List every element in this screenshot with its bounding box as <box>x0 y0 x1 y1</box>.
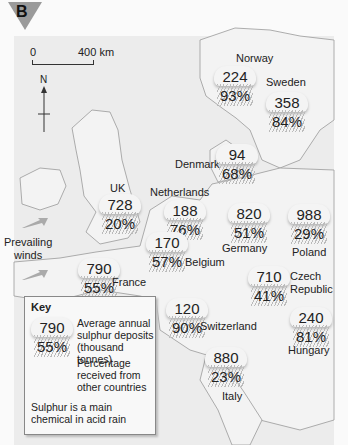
cloud-germany: 820 51% <box>228 203 270 247</box>
winds-line2: winds <box>4 249 52 262</box>
country-label-denmark: Denmark <box>175 158 220 170</box>
key-percent-line1: Percentage <box>77 357 146 369</box>
deposits-denmark: 94 <box>216 146 258 163</box>
deposits-norway: 224 <box>214 68 256 85</box>
cloud-czech-republic: 710 41% <box>248 266 290 310</box>
acid-rain-map: B 0 400 km N Norway 224 93% Sweden 358 8… <box>0 0 348 445</box>
key-title: Key <box>31 301 51 313</box>
deposits-poland: 988 <box>288 206 330 223</box>
deposits-netherlands: 188 <box>164 202 206 219</box>
scale-end: 400 km <box>78 46 114 58</box>
country-label-hungary: Hungary <box>288 344 330 356</box>
percent-denmark: 68% <box>216 165 258 182</box>
country-label-republic: Republic <box>290 283 333 295</box>
key-deposits-line1: Average annual <box>77 317 155 329</box>
cloud-poland: 988 29% <box>288 204 330 248</box>
key-note-line2: chemical in acid rain <box>31 413 126 425</box>
cloud-sweden: 358 84% <box>266 92 308 136</box>
deposits-belgium: 170 <box>146 234 188 251</box>
country-label-czech: Czech <box>290 270 321 282</box>
prevailing-winds-label: Prevailing winds <box>4 236 52 262</box>
deposits-switzerland: 120 <box>166 300 208 317</box>
country-label-netherlands: Netherlands <box>150 186 209 198</box>
cloud-italy: 880 23% <box>205 347 247 391</box>
wind-arrow-icon <box>22 270 48 280</box>
figure-letter: B <box>16 3 28 21</box>
cloud-denmark: 94 68% <box>216 144 258 188</box>
percent-italy: 23% <box>205 368 247 385</box>
key-percent-line2: received from <box>77 369 146 381</box>
winds-line1: Prevailing <box>4 236 52 249</box>
scale-line <box>32 60 94 65</box>
percent-poland: 29% <box>288 225 330 242</box>
deposits-sweden: 358 <box>266 94 308 111</box>
key-note-line1: Sulphur is a main <box>31 401 126 413</box>
wind-arrow-icon <box>22 218 48 228</box>
country-label-germany: Germany <box>222 242 267 254</box>
deposits-uk: 728 <box>99 196 141 213</box>
percent-hungary: 81% <box>290 328 332 345</box>
north-arrow: N <box>38 74 52 134</box>
deposits-italy: 880 <box>205 349 247 366</box>
deposits-czech-republic: 710 <box>248 268 290 285</box>
percent-belgium: 57% <box>146 253 188 270</box>
percent-germany: 51% <box>228 224 270 241</box>
cloud-norway: 224 93% <box>214 66 256 110</box>
key-deposits-line2: sulphur deposits <box>77 329 155 341</box>
cloud-uk: 728 20% <box>99 194 141 238</box>
deposits-france: 790 <box>78 260 120 277</box>
country-label-sweden: Sweden <box>266 76 306 88</box>
country-label-belgium: Belgium <box>185 256 225 268</box>
key-note: Sulphur is a main chemical in acid rain <box>31 401 126 425</box>
key-percent-description: Percentage received from other countries <box>77 357 146 393</box>
percent-uk: 20% <box>99 215 141 232</box>
country-label-italy: Italy <box>222 390 242 402</box>
scale-start: 0 <box>30 46 36 58</box>
deposits-hungary: 240 <box>290 309 332 326</box>
north-arrow-icon <box>38 74 52 134</box>
country-label-switzerland: Switzerland <box>200 320 257 332</box>
key-example-deposits: 790 <box>31 319 73 336</box>
map-key: Key 790 55% Average annual sulphur depos… <box>24 296 156 435</box>
country-label-uk: UK <box>110 182 125 194</box>
key-percent-line3: other countries <box>77 381 146 393</box>
percent-sweden: 84% <box>266 113 308 130</box>
percent-norway: 93% <box>214 87 256 104</box>
scale-bar: 0 400 km <box>30 46 102 66</box>
cloud-belgium: 170 57% <box>146 232 188 276</box>
deposits-germany: 820 <box>228 205 270 222</box>
key-example-percent: 55% <box>31 338 73 355</box>
country-label-norway: Norway <box>236 52 273 64</box>
country-label-poland: Poland <box>292 246 326 258</box>
percent-czech-republic: 41% <box>248 287 290 304</box>
key-example-cloud: 790 55% <box>31 317 73 361</box>
country-label-france: France <box>112 276 146 288</box>
